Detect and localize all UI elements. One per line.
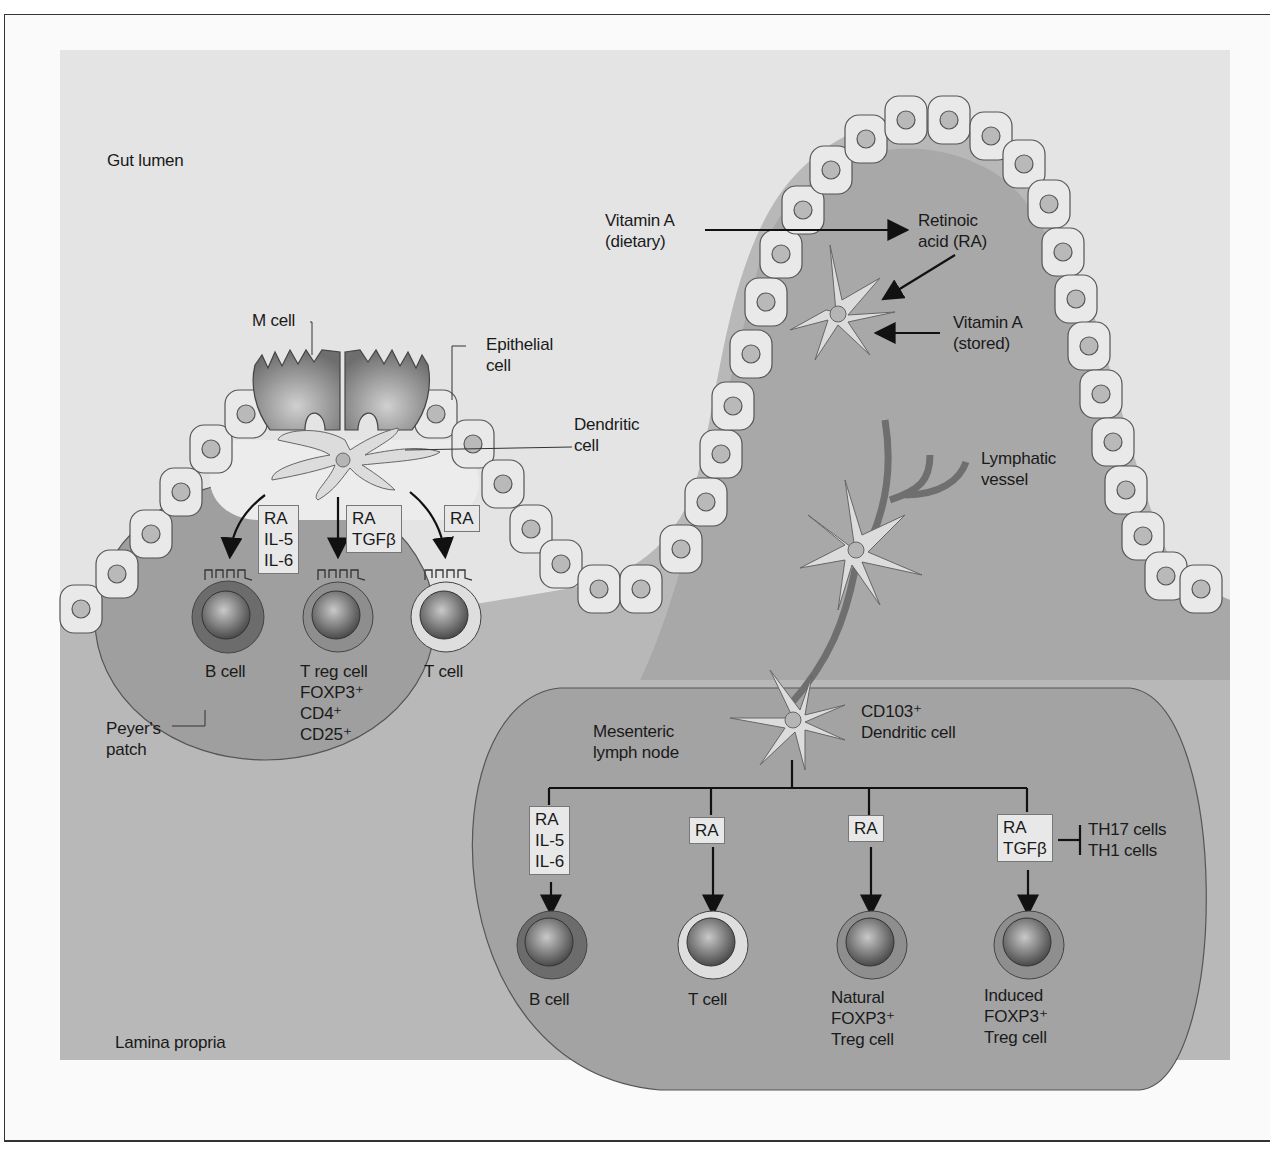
dendritic-cell-label: Dendritic cell: [574, 414, 639, 456]
signal-box-patch-b: RA IL-5 IL-6: [258, 505, 299, 574]
patch-cell-label-b: B cell: [205, 661, 245, 682]
inhibited-cells-label: TH17 cells TH1 cells: [1088, 819, 1166, 861]
vitamin-a-dietary-label: Vitamin A (dietary): [605, 210, 675, 252]
signal-box-ln-t: RA: [689, 817, 725, 844]
retinoic-acid-label: Retinoic acid (RA): [918, 210, 987, 252]
ln-cell-label-ntreg: Natural FOXP3⁺ Treg cell: [831, 987, 895, 1050]
lymphatic-vessel-label: Lymphatic vessel: [981, 448, 1056, 490]
lamina-propria-label: Lamina propria: [115, 1032, 226, 1053]
m-cell-label: M cell: [252, 310, 295, 331]
epithelial-cell-label: Epithelial cell: [486, 334, 553, 376]
patch-cells: [192, 581, 481, 653]
signal-box-patch-t: RA: [444, 505, 480, 532]
signal-box-ln-itreg: RA TGFβ: [997, 814, 1053, 862]
signal-box-ln-ntreg: RA: [848, 815, 884, 842]
patch-cell-label-t: T cell: [424, 661, 463, 682]
lymph-node-label: Mesenteric lymph node: [593, 721, 679, 763]
ln-cell-label-b: B cell: [529, 989, 569, 1010]
ln-cell-label-t: T cell: [688, 989, 727, 1010]
signal-box-ln-b: RA IL-5 IL-6: [529, 806, 570, 875]
signal-box-patch-treg: RA TGFβ: [346, 505, 402, 553]
ln-cell-label-itreg: Induced FOXP3⁺ Treg cell: [984, 985, 1048, 1048]
peyers-patch-label: Peyer's patch: [106, 718, 161, 760]
gut-lumen-label: Gut lumen: [107, 150, 184, 171]
diagram-canvas: [0, 0, 1272, 1168]
vitamin-a-stored-label: Vitamin A (stored): [953, 312, 1023, 354]
cd103-dendritic-cell-label: CD103⁺ Dendritic cell: [861, 701, 956, 743]
patch-cell-label-treg: T reg cell FOXP3⁺ CD4⁺ CD25⁺: [300, 661, 368, 745]
